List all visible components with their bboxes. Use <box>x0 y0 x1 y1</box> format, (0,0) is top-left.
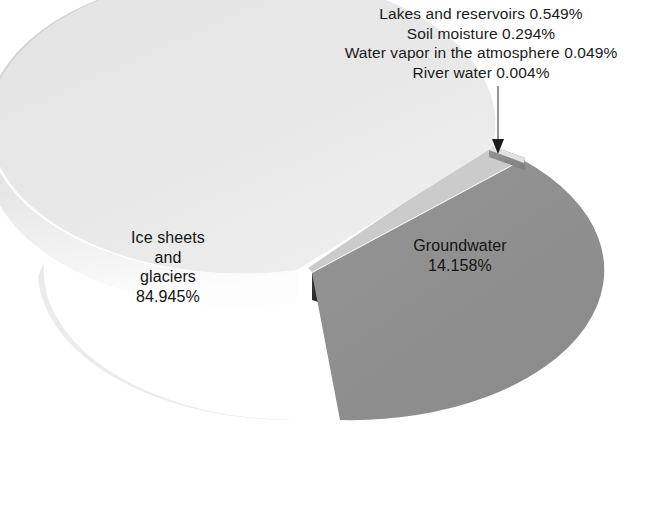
callout-line-water-vapor: Water vapor in the atmosphere 0.049% <box>300 43 662 63</box>
callout-line-soil-moisture: Soil moisture 0.294% <box>300 24 662 44</box>
pie-chart-figure: Lakes and reservoirs 0.549% Soil moistur… <box>0 0 665 511</box>
minor-slices-callout: Lakes and reservoirs 0.549% Soil moistur… <box>300 4 662 82</box>
ice-label-line-1: Ice sheets <box>92 228 244 248</box>
callout-line-lakes: Lakes and reservoirs 0.549% <box>300 4 662 24</box>
ice-label-line-2: and <box>92 248 244 268</box>
groundwater-label-value: 14.158% <box>378 256 542 276</box>
slice-label-ice-sheets: Ice sheets and glaciers 84.945% <box>92 228 244 306</box>
ice-label-line-3: glaciers <box>92 267 244 287</box>
slice-label-groundwater: Groundwater 14.158% <box>378 236 542 275</box>
callout-line-river-water: River water 0.004% <box>300 63 662 83</box>
ice-label-value: 84.945% <box>92 287 244 307</box>
groundwater-label-name: Groundwater <box>378 236 542 256</box>
